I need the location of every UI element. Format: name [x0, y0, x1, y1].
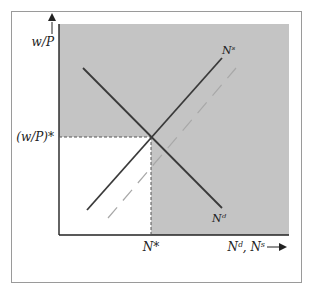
equilibrium-wage-label: (w/P)* — [16, 130, 54, 144]
demand-curve-label: Nᵈ — [211, 212, 227, 225]
supply-curve-label: Nˢ — [221, 44, 236, 57]
y-axis-label: w/P — [32, 35, 55, 49]
x-axis-label: Nᵈ, Nˢ — [227, 240, 265, 254]
equilibrium-employment-label: N* — [142, 240, 160, 254]
